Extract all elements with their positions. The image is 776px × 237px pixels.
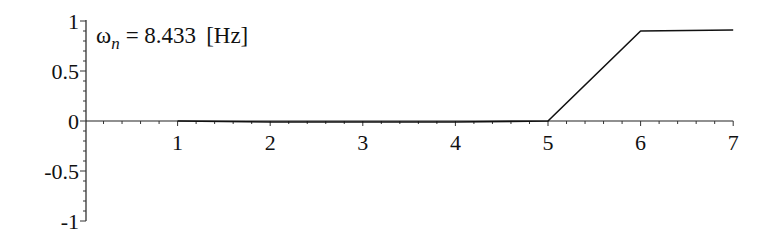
x-tick-label: 1 (172, 130, 183, 155)
x-tick-label: 6 (635, 130, 646, 155)
x-tick-label: 5 (543, 130, 554, 155)
series-line-response (178, 30, 734, 122)
x-tick-label: 7 (728, 130, 739, 155)
x-axis-tick-labels: 1234567 (172, 130, 739, 155)
y-axis-tick-labels: 10.50-0.5-1 (44, 9, 79, 234)
x-tick-label: 2 (265, 130, 276, 155)
omega-symbol: ω (96, 23, 111, 48)
natural-frequency-annotation: ωn= 8.433[Hz] (96, 23, 248, 53)
x-tick-label: 4 (450, 130, 461, 155)
subscript-n: n (111, 34, 120, 53)
y-tick-label: -0.5 (44, 159, 79, 184)
data-series (178, 30, 734, 122)
frequency-unit: [Hz] (206, 23, 248, 48)
frequency-value: = 8.433 (126, 23, 196, 48)
y-tick-label: -1 (61, 209, 79, 234)
line-chart: 10.50-0.5-1 1234567 ωn= 8.433[Hz] (0, 0, 776, 237)
y-tick-label: 1 (68, 9, 79, 34)
y-tick-label: 0 (68, 109, 79, 134)
y-tick-label: 0.5 (52, 59, 80, 84)
x-tick-label: 3 (357, 130, 368, 155)
